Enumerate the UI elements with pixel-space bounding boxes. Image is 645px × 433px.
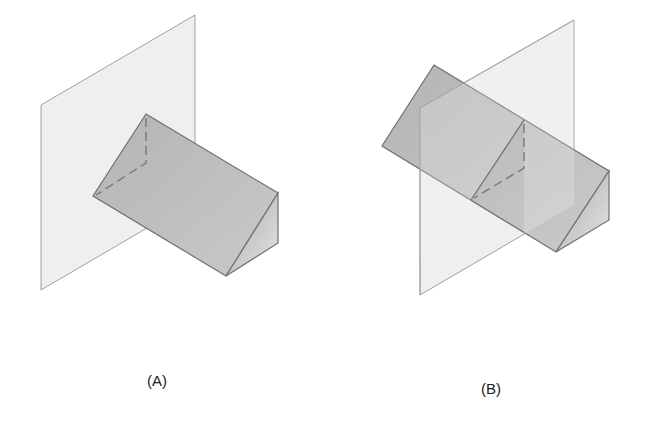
prism-b: [382, 20, 609, 295]
label-b: (B): [481, 380, 501, 397]
panel-b: [382, 20, 609, 295]
label-a: (A): [147, 372, 167, 389]
panel-a: [41, 15, 278, 290]
diagram-canvas: [0, 0, 645, 433]
